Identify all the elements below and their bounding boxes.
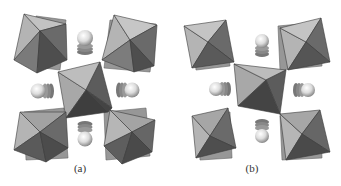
panel-b-label: (b) — [232, 162, 272, 174]
octahedron-bottom-right — [280, 110, 330, 160]
sphere-column-top — [77, 30, 93, 55]
octahedron-center — [234, 64, 286, 114]
sphere-column-bottom — [255, 119, 269, 143]
octahedron-top-left — [184, 20, 234, 68]
panel-b-structure — [170, 0, 341, 186]
sphere-column-left — [31, 84, 55, 99]
panel-b: (b) — [170, 0, 340, 186]
crystal-structure-figure: (a) — [0, 0, 341, 186]
panel-a-label: (a) — [60, 162, 100, 174]
sphere-column-bottom — [78, 121, 93, 147]
panel-a-structure — [0, 0, 170, 186]
sphere-column-right — [116, 83, 140, 98]
sphere-column-left — [209, 82, 231, 96]
panel-a: (a) — [0, 0, 170, 186]
sphere-column-top — [255, 34, 269, 57]
sphere-column-right — [293, 83, 315, 97]
octahedron-center — [58, 62, 112, 118]
